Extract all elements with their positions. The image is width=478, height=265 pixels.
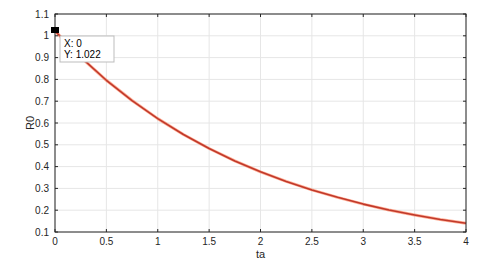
y-tick-label: 0.2 bbox=[35, 205, 49, 216]
x-tick-label: 2.5 bbox=[305, 236, 319, 247]
y-tick-labels: 0.10.20.30.40.50.60.70.80.911.1 bbox=[35, 9, 49, 238]
y-tick-label: 1 bbox=[43, 30, 49, 41]
y-tick-label: 0.3 bbox=[35, 183, 49, 194]
x-tick-label: 0.5 bbox=[99, 236, 113, 247]
y-tick-label: 0.9 bbox=[35, 52, 49, 63]
y-axis-label: R0 bbox=[24, 116, 36, 130]
y-tick-label: 0.6 bbox=[35, 118, 49, 129]
x-tick-label: 3.5 bbox=[408, 236, 422, 247]
line-chart: 00.511.522.533.54 0.10.20.30.40.50.60.70… bbox=[0, 0, 478, 265]
y-tick-label: 0.4 bbox=[35, 161, 49, 172]
x-tick-label: 4 bbox=[463, 236, 469, 247]
x-tick-labels: 00.511.522.533.54 bbox=[52, 236, 469, 247]
y-tick-label: 1.1 bbox=[35, 9, 49, 20]
y-tick-label: 0.1 bbox=[35, 227, 49, 238]
x-tick-label: 1 bbox=[155, 236, 161, 247]
datatip[interactable]: X: 0 Y: 1.022 bbox=[51, 27, 114, 62]
x-tick-label: 1.5 bbox=[202, 236, 216, 247]
grid-lines bbox=[55, 14, 466, 232]
datatip-marker[interactable] bbox=[51, 27, 59, 33]
y-tick-label: 0.7 bbox=[35, 96, 49, 107]
y-tick-label: 0.5 bbox=[35, 139, 49, 150]
x-axis-label: ta bbox=[256, 248, 266, 260]
datatip-y-label: Y: 1.022 bbox=[64, 49, 101, 60]
y-tick-label: 0.8 bbox=[35, 74, 49, 85]
datatip-x-label: X: 0 bbox=[64, 38, 82, 49]
x-tick-label: 0 bbox=[52, 236, 58, 247]
x-tick-label: 2 bbox=[258, 236, 264, 247]
x-tick-label: 3 bbox=[360, 236, 366, 247]
